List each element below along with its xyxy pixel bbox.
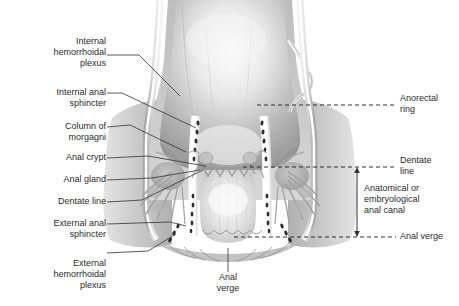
label-anal-verge-right: Anal verge (400, 231, 459, 242)
anal-canal (200, 172, 262, 243)
label-internal-hemorrhoidal-plexus: Internal hemorrhoidal plexus (8, 36, 106, 69)
label-external-hemorrhoidal-plexus: External hemorrhoidal plexus (8, 258, 106, 291)
label-external-anal-sphincter: External anal sphincter (8, 218, 106, 240)
label-dentate-line-right: Dentate line (400, 155, 458, 177)
arrowhead-up (354, 167, 360, 173)
label-anal-crypt: Anal crypt (8, 152, 106, 163)
arrowhead-down (354, 231, 360, 237)
figure-container: Internal hemorrhoidal plexus Internal an… (0, 0, 459, 306)
label-anorectal-ring: Anorectal ring (400, 93, 458, 115)
label-anal-gland: Anal gland (8, 174, 106, 185)
label-dentate-line-left: Dentate line (8, 196, 106, 207)
label-column-of-morgagni: Column of morgagni (8, 121, 106, 143)
label-anatomical-anal-canal: Anatomical or embryological anal canal (364, 183, 459, 216)
label-internal-anal-sphincter: Internal anal sphincter (8, 87, 106, 109)
rectal-lumen (160, 0, 300, 170)
label-anal-verge-bottom: Anal verge (198, 272, 258, 294)
